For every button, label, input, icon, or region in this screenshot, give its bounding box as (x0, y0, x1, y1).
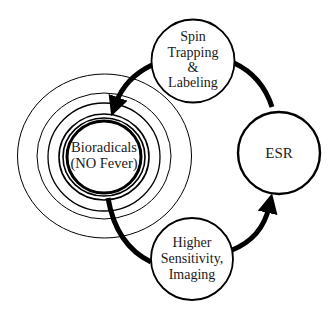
bioradicals-label-line2: (NO Fever) (70, 155, 137, 172)
higher-label-line2: Sensitivity, (161, 251, 224, 266)
spin-label-line4: Labeling (168, 75, 218, 90)
spin-label-line1: Spin (180, 29, 206, 44)
arc-esr-to-spin (234, 63, 272, 107)
cycle-diagram: Bioradicals (NO Fever) Spin Trapping & L… (0, 0, 333, 311)
node-higher-sensitivity: Higher Sensitivity, Imaging (151, 218, 233, 300)
bioradicals-label-line1: Bioradicals (71, 139, 137, 155)
arc-bioradicals-to-higher (108, 198, 151, 262)
spin-label-line3: & (188, 60, 199, 75)
node-spin-trapping: Spin Trapping & Labeling (152, 20, 235, 103)
arrow-higher-to-esr (232, 207, 269, 250)
node-bioradicals: Bioradicals (NO Fever) (67, 121, 141, 193)
spin-label-line2: Trapping (168, 45, 219, 60)
higher-label-line3: Imaging (169, 267, 216, 282)
esr-label: ESR (265, 145, 293, 161)
higher-label-line1: Higher (173, 235, 212, 250)
node-esr: ESR (238, 112, 320, 194)
